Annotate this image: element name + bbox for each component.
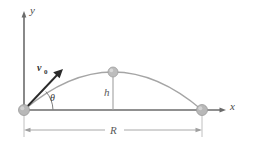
launch-ball-icon <box>19 105 30 116</box>
velocity-vector-label: v <box>37 62 42 73</box>
range-arrowhead-left <box>24 128 31 132</box>
projectile-motion-figure: y x v 0 θ h R <box>0 0 254 149</box>
velocity-vector-subscript: 0 <box>44 68 48 76</box>
y-axis-arrowhead <box>22 11 27 18</box>
launch-ball-highlight <box>20 106 24 110</box>
height-label: h <box>104 86 110 98</box>
landing-ball-icon <box>197 105 208 116</box>
landing-ball-highlight <box>198 106 202 110</box>
apex-ball-highlight <box>110 69 114 73</box>
range-arrowhead-right <box>196 128 203 132</box>
range-label: R <box>109 124 117 136</box>
diagram-svg: y x v 0 θ h R <box>0 0 254 149</box>
x-axis-label: x <box>229 100 235 112</box>
y-axis-label: y <box>29 4 35 16</box>
apex-ball-icon <box>108 67 118 77</box>
x-axis-arrowhead <box>220 108 227 113</box>
angle-theta-label: θ <box>50 92 55 103</box>
